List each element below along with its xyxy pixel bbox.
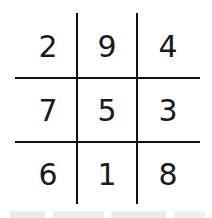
- cell-r2-c2: 5: [79, 82, 135, 138]
- grid-line-horizontal-1: [15, 77, 200, 79]
- grid-line-horizontal-2: [15, 141, 200, 143]
- cell-r3-c3: 8: [140, 146, 196, 202]
- cell-r1-c2: 9: [79, 18, 135, 74]
- cell-r2-c3: 3: [140, 82, 196, 138]
- faded-caption: [10, 211, 205, 218]
- grid-line-vertical-1: [76, 13, 78, 204]
- grid-line-vertical-2: [136, 13, 138, 204]
- cell-r1-c3: 4: [140, 18, 196, 74]
- cell-r2-c1: 7: [20, 82, 76, 138]
- cell-r1-c1: 2: [20, 18, 76, 74]
- cell-r3-c2: 1: [79, 146, 135, 202]
- cell-r3-c1: 6: [20, 146, 76, 202]
